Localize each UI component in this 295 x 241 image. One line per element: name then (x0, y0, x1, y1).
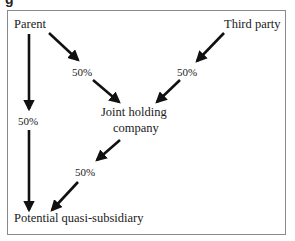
node-joint-holding-line1: Joint holding (101, 105, 167, 119)
arrow-pct-to-joint (93, 80, 119, 102)
node-joint-holding-line2: company (113, 121, 159, 135)
arrow-third-to-pct (197, 33, 224, 61)
arrow-pct-to-subsidiary (52, 182, 78, 210)
arrow-pct-to-joint-right (157, 80, 180, 102)
edge-label-joint-subsidiary: 50% (75, 166, 95, 178)
node-potential-quasi-subsidiary: Potential quasi-subsidiary (14, 211, 144, 225)
node-third-party: Third party (224, 17, 281, 31)
edge-label-parent-subsidiary: 50% (18, 115, 38, 127)
node-parent: Parent (14, 17, 46, 31)
arrow-parent-to-pct (49, 33, 78, 60)
edge-label-parent-joint: 50% (72, 66, 92, 78)
arrow-joint-to-pct (97, 140, 120, 160)
edge-label-third-joint: 50% (177, 66, 197, 78)
